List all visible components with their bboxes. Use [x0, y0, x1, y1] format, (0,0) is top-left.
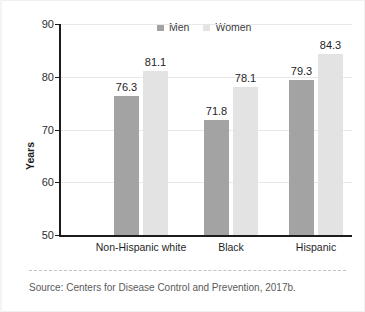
- bar-value-women: 84.3: [320, 39, 341, 51]
- y-tick-mark-60: [55, 182, 59, 183]
- bar-men: 79.3: [289, 80, 314, 235]
- bar-women: 84.3: [318, 54, 343, 235]
- category-label-hispanic: Hispanic: [296, 241, 336, 253]
- y-axis-line: [59, 24, 61, 237]
- y-axis-title: Years: [24, 142, 36, 170]
- y-tick-label-80: 80: [42, 71, 54, 83]
- bar-women: 81.1: [143, 71, 168, 235]
- category-label-black: Black: [218, 241, 244, 253]
- plot-area: 5060708090 76.3 81.1 71.8 78.1 79.3 84.3: [59, 24, 352, 237]
- category-label-non-hispanic-white: Non-Hispanic white: [96, 241, 186, 253]
- bar-men: 76.3: [114, 96, 139, 235]
- source-note: Source: Centers for Disease Control and …: [29, 282, 296, 293]
- bar-value-men: 71.8: [206, 105, 227, 117]
- y-tick-mark-50: [55, 235, 59, 236]
- bar-value-women: 78.1: [235, 72, 256, 84]
- figure-card: Men Women Years 5060708090 76.3 81.1 71.…: [0, 0, 365, 312]
- y-tick-mark-70: [55, 130, 59, 131]
- y-tick-label-50: 50: [42, 229, 54, 241]
- bar-women: 78.1: [233, 87, 258, 235]
- y-tick-label-90: 90: [42, 18, 54, 30]
- bar-value-men: 79.3: [291, 65, 312, 77]
- y-tick-label-70: 70: [42, 124, 54, 136]
- bar-value-men: 76.3: [116, 81, 137, 93]
- x-axis-line: [59, 235, 352, 237]
- bar-men: 71.8: [204, 120, 229, 235]
- source-divider: [29, 270, 346, 271]
- y-tick-label-60: 60: [42, 176, 54, 188]
- gridline-90: [61, 24, 352, 25]
- y-tick-mark-90: [55, 24, 59, 25]
- y-tick-mark-80: [55, 77, 59, 78]
- bar-value-women: 81.1: [145, 56, 166, 68]
